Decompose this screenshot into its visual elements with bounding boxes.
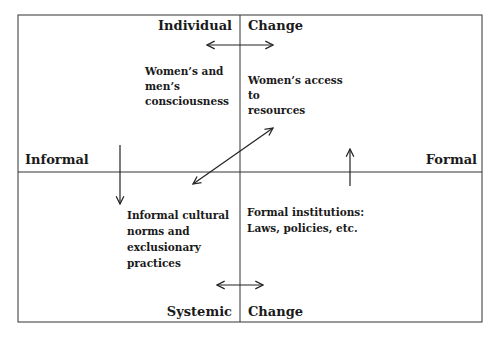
diagonal-arrow — [193, 128, 273, 184]
quadrant-informal-norms: Informal cultural norms and exclusionary… — [127, 207, 229, 271]
quadrant-line: exclusionary — [127, 239, 229, 255]
quadrant-line: Women’s access — [248, 73, 343, 88]
quadrant-consciousness: Women’s and men’s consciousness — [145, 64, 229, 109]
axis-label-change-top: Change — [248, 18, 303, 33]
quadrant-line: Women’s and — [145, 64, 229, 79]
axis-label-change-bottom: Change — [248, 304, 303, 319]
outer-frame — [18, 15, 482, 322]
quadrant-line: practices — [127, 255, 229, 271]
quadrant-formal-institutions: Formal institutions: Laws, policies, etc… — [247, 204, 364, 236]
quadrant-resources: Women’s access to resources — [248, 73, 343, 118]
quadrant-line: to — [248, 88, 343, 103]
quadrant-line: Formal institutions: — [247, 204, 364, 220]
quadrant-line: consciousness — [145, 94, 229, 109]
quadrant-diagram — [0, 0, 497, 339]
quadrant-line: norms and — [127, 223, 229, 239]
quadrant-line: resources — [248, 103, 343, 118]
axis-label-individual: Individual — [158, 18, 232, 33]
axis-label-informal: Informal — [25, 152, 89, 167]
axis-label-formal: Formal — [426, 152, 477, 167]
quadrant-line: Informal cultural — [127, 207, 229, 223]
axis-label-systemic: Systemic — [167, 304, 232, 319]
quadrant-line: Laws, policies, etc. — [247, 220, 364, 236]
quadrant-line: men’s — [145, 79, 229, 94]
